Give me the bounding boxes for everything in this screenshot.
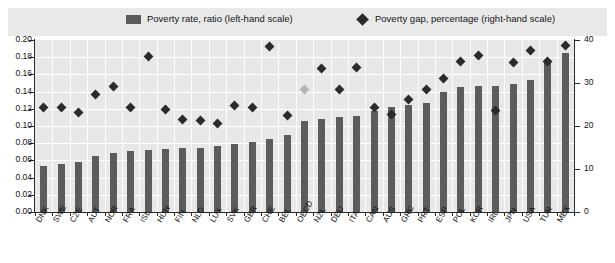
vertical-gridline xyxy=(452,40,453,212)
bar-aus xyxy=(388,107,395,212)
bar-pol xyxy=(457,87,464,212)
left-axis-tick-label: 0.12 xyxy=(15,104,32,113)
vertical-gridline xyxy=(400,40,401,212)
vertical-gridline xyxy=(348,40,349,212)
vertical-gridline xyxy=(278,40,279,212)
vertical-gridline xyxy=(435,40,436,212)
left-axis-tick-label: 0.04 xyxy=(15,173,32,182)
bar-prt xyxy=(423,103,430,212)
right-axis-tick xyxy=(575,83,580,84)
bar-nzl xyxy=(318,119,325,212)
left-axis-tick-label: 0.06 xyxy=(15,155,32,164)
left-axis-tick-label: 0.16 xyxy=(15,69,32,78)
chart-legend: Poverty rate, ratio (left-hand scale) Po… xyxy=(8,8,607,36)
right-axis-tick-label: 10 xyxy=(584,164,593,173)
vertical-gridline xyxy=(70,40,71,212)
diamond-marker-icon xyxy=(356,13,369,26)
vertical-gridline xyxy=(261,40,262,212)
vertical-gridline xyxy=(418,40,419,212)
vertical-gridline xyxy=(296,40,297,212)
bar-gbr xyxy=(249,142,256,212)
left-axis-line xyxy=(34,39,35,213)
bar-irl xyxy=(492,86,499,212)
left-axis-tick-label: 0.18 xyxy=(15,52,32,61)
vertical-gridline xyxy=(504,40,505,212)
vertical-gridline xyxy=(209,40,210,212)
gridline xyxy=(35,57,574,58)
bar-mex xyxy=(562,53,569,212)
bar-che xyxy=(266,139,273,212)
vertical-gridline xyxy=(470,40,471,212)
left-axis-tick-label: 0.02 xyxy=(15,190,32,199)
bar-esp xyxy=(440,92,447,212)
bar-tur xyxy=(544,63,551,212)
left-axis-tick-label: 0.20 xyxy=(15,35,32,44)
bar-usa xyxy=(527,80,534,212)
vertical-gridline xyxy=(52,40,53,212)
legend-label-poverty-rate: Poverty rate, ratio (left-hand scale) xyxy=(147,14,293,24)
left-axis-tick-label: 0.00 xyxy=(15,207,32,216)
bar-fin xyxy=(179,148,186,212)
right-axis-tick-label: 0 xyxy=(584,207,589,216)
bar-lux xyxy=(214,146,221,212)
vertical-gridline xyxy=(226,40,227,212)
left-axis-tick-label: 0.14 xyxy=(15,87,32,96)
bar-kor xyxy=(475,86,482,212)
vertical-gridline xyxy=(191,40,192,212)
vertical-gridline xyxy=(557,40,558,212)
vertical-gridline xyxy=(139,40,140,212)
bar-deu xyxy=(336,117,343,212)
gridline xyxy=(35,74,574,75)
bar-svk xyxy=(231,144,238,212)
vertical-gridline xyxy=(313,40,314,212)
bar-isl xyxy=(145,150,152,212)
left-axis-tick-label: 0.08 xyxy=(15,138,32,147)
bar-fra xyxy=(127,151,134,212)
right-axis-tick-label: 30 xyxy=(584,78,593,87)
right-axis-tick xyxy=(575,212,580,213)
bar-bel xyxy=(284,135,291,212)
right-axis-tick-label: 40 xyxy=(584,35,593,44)
right-axis-tick-label: 20 xyxy=(584,121,593,130)
bar-aut xyxy=(92,156,99,212)
bar-nor xyxy=(110,153,117,212)
vertical-gridline xyxy=(365,40,366,212)
vertical-gridline xyxy=(157,40,158,212)
vertical-gridline xyxy=(122,40,123,212)
vertical-gridline xyxy=(539,40,540,212)
poverty-chart: Poverty rate, ratio (left-hand scale) Po… xyxy=(0,0,615,263)
right-axis-tick xyxy=(575,169,580,170)
bar-can xyxy=(371,111,378,212)
vertical-gridline xyxy=(174,40,175,212)
vertical-gridline xyxy=(383,40,384,212)
bar-jpn xyxy=(510,84,517,212)
bar-grc xyxy=(405,105,412,212)
left-axis-tick-label: 0.10 xyxy=(15,121,32,130)
right-axis-tick xyxy=(575,126,580,127)
bar-ita xyxy=(353,116,360,212)
bar-cze xyxy=(75,162,82,212)
vertical-gridline xyxy=(87,40,88,212)
right-axis-tick xyxy=(575,40,580,41)
legend-label-poverty-gap: Poverty gap, percentage (right-hand scal… xyxy=(375,14,555,24)
vertical-gridline xyxy=(487,40,488,212)
legend-item-poverty-rate: Poverty rate, ratio (left-hand scale) xyxy=(126,14,293,24)
bar-nld xyxy=(197,148,204,213)
vertical-gridline xyxy=(244,40,245,212)
bar-swatch-icon xyxy=(126,15,141,24)
bar-hun xyxy=(162,149,169,212)
vertical-gridline xyxy=(331,40,332,212)
vertical-gridline xyxy=(522,40,523,212)
vertical-gridline xyxy=(105,40,106,212)
legend-item-poverty-gap: Poverty gap, percentage (right-hand scal… xyxy=(356,14,555,24)
category-tick xyxy=(574,212,575,216)
